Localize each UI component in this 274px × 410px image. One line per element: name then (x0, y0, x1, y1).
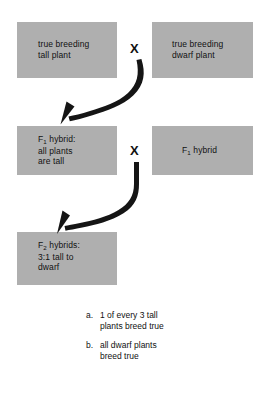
cross-symbol-f1: X (130, 143, 139, 158)
notes-list: a. 1 of every 3 tall plants breed true b… (86, 310, 256, 370)
arrow-parent-to-f1-head (61, 102, 75, 125)
box-parent-tall-plant-label: true breeding tall plant (38, 39, 89, 60)
genetics-cross-diagram: true breeding tall plant true breeding d… (0, 0, 274, 410)
list-item: b. all dwarf plants breed true (86, 340, 256, 361)
arrow-f1-to-f2-head (57, 211, 70, 235)
box-parent-dwarf-plant-label: true breeding dwarf plant (172, 39, 223, 60)
box-f1-hybrid-all-tall-label: F1 hybrid:all plantsare tall (38, 134, 76, 167)
list-item-text: 1 of every 3 tall plants breed true (100, 310, 164, 331)
box-f2-hybrids-label: F2 hybrids:3:1 tall todwarf (38, 240, 80, 273)
list-item-marker: b. (86, 340, 100, 351)
list-item-text: all dwarf plants breed true (100, 340, 157, 361)
box-f1-hybrid-label: F1 hybrid (182, 145, 217, 157)
list-item-marker: a. (86, 310, 100, 321)
list-item: a. 1 of every 3 tall plants breed true (86, 310, 256, 331)
cross-symbol-parent: X (130, 41, 139, 56)
